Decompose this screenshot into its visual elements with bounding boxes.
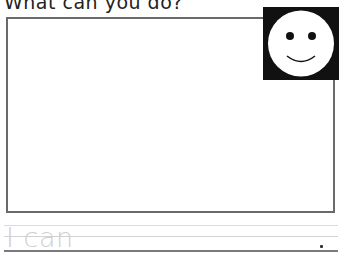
worksheet-title: What can you do? <box>4 0 183 13</box>
smiley-face-icon <box>263 7 339 80</box>
sentence-period <box>320 245 323 248</box>
traced-sentence-starter: I can <box>6 224 74 252</box>
